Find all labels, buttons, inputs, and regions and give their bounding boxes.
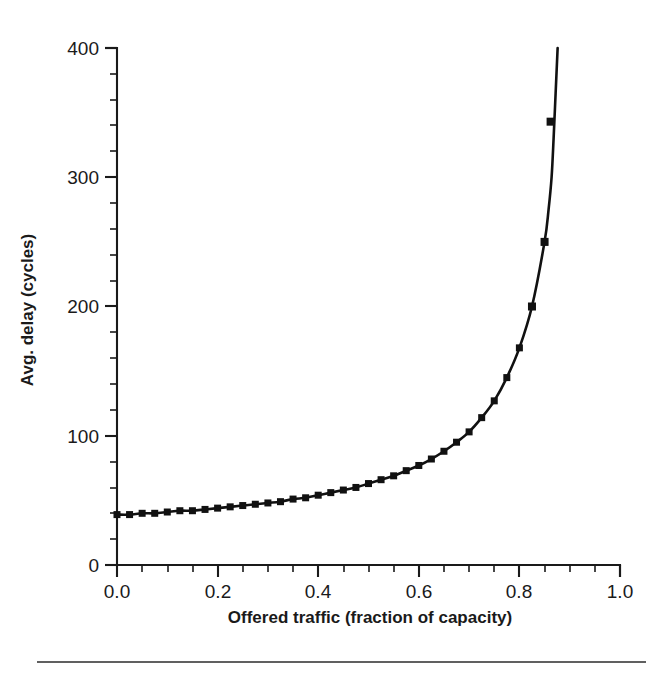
y-axis-tick-labels: 400 300 200 100 0 <box>67 38 99 576</box>
data-point-marker <box>440 448 447 455</box>
data-point-marker <box>315 492 322 499</box>
data-point-marker <box>114 511 121 518</box>
data-point-marker <box>503 374 510 381</box>
x-tick-label: 0.2 <box>205 581 231 602</box>
x-tick-label: 0.4 <box>305 581 332 602</box>
data-point-marker <box>516 344 523 351</box>
data-point-marker <box>453 439 460 446</box>
data-point-marker <box>491 397 498 404</box>
data-point-marker <box>290 496 297 503</box>
y-tick-label: 400 <box>67 38 99 59</box>
data-point-marker <box>327 489 334 496</box>
data-point-marker <box>547 118 555 126</box>
data-point-marker <box>428 456 435 463</box>
data-point-marker <box>139 510 146 517</box>
data-point-marker <box>541 238 549 246</box>
chart-figure: Avg. delay (cycles) Offered traffic (fra… <box>0 0 670 675</box>
data-point-marker <box>466 428 473 435</box>
x-tick-label: 1.0 <box>607 581 633 602</box>
data-point-marker <box>378 476 385 483</box>
data-point-marker <box>352 484 359 491</box>
data-point-marker <box>164 509 171 516</box>
data-point-marker <box>415 462 422 469</box>
x-tick-label: 0.0 <box>104 581 130 602</box>
data-point-marker <box>403 467 410 474</box>
data-point-marker <box>302 494 309 501</box>
y-axis-title: Avg. delay (cycles) <box>18 234 37 386</box>
data-point-marker <box>365 480 372 487</box>
series-markers <box>114 118 555 518</box>
data-point-marker <box>390 472 397 479</box>
series-line-avg-delay <box>117 48 558 515</box>
data-point-marker <box>252 501 259 508</box>
data-point-marker <box>176 507 183 514</box>
data-point-marker <box>277 498 284 505</box>
data-point-marker <box>189 507 196 514</box>
y-tick-label: 100 <box>67 426 99 447</box>
y-tick-label: 200 <box>67 296 99 317</box>
data-point-marker <box>340 487 347 494</box>
data-point-marker <box>214 505 221 512</box>
data-point-marker <box>239 502 246 509</box>
data-point-marker <box>227 503 234 510</box>
data-point-marker <box>151 510 158 517</box>
y-tick-label: 0 <box>88 555 99 576</box>
data-point-marker <box>264 499 271 506</box>
x-tick-label: 0.8 <box>506 581 532 602</box>
data-point-marker <box>528 303 536 311</box>
data-point-marker <box>202 506 209 513</box>
data-point-marker <box>126 511 133 518</box>
y-tick-label: 300 <box>67 167 99 188</box>
x-tick-label: 0.6 <box>406 581 432 602</box>
x-axis-title: Offered traffic (fraction of capacity) <box>228 608 512 627</box>
x-axis-tick-labels: 0.0 0.2 0.4 0.6 0.8 1.0 <box>104 581 633 602</box>
data-point-marker <box>478 414 485 421</box>
